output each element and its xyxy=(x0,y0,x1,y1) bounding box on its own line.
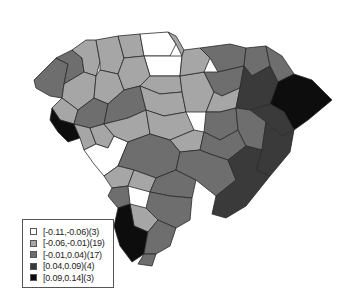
legend-label: [0.09,0.14](3) xyxy=(43,273,94,283)
legend-label: [-0.01,0.04)(17) xyxy=(43,250,102,260)
legend-item: [0.04,0.09)(4) xyxy=(30,261,113,273)
legend-swatch xyxy=(30,228,37,235)
legend-label: [0.04,0.09)(4) xyxy=(43,261,94,271)
legend-label: [-0.06,-0.01)(19) xyxy=(43,238,105,248)
legend-item: [-0.11,-0.06)(3) xyxy=(30,226,113,238)
legend-swatch xyxy=(30,274,37,281)
legend-swatch xyxy=(30,251,37,258)
map-legend: [-0.11,-0.06)(3) [-0.06,-0.01)(19) [-0.0… xyxy=(22,219,114,288)
county-york-lower xyxy=(144,56,182,76)
legend-swatch xyxy=(30,240,37,247)
legend-item: [0.09,0.14](3) xyxy=(30,272,113,284)
legend-swatch xyxy=(30,263,37,270)
legend-item: [-0.01,0.04)(17) xyxy=(30,249,113,261)
legend-label: [-0.11,-0.06)(3) xyxy=(43,227,99,237)
legend-item: [-0.06,-0.01)(19) xyxy=(30,238,113,250)
